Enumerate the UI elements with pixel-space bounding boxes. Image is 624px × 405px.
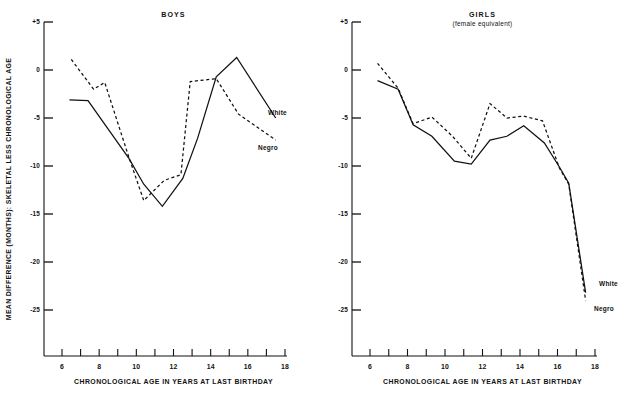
x-axis-tick-label: 12 [169, 363, 177, 370]
series-line-negro [71, 59, 275, 200]
y-axis-tick-label: -5 [342, 114, 348, 121]
panel-title: GIRLS [469, 11, 496, 19]
y-axis-tick-label: 0 [36, 66, 40, 73]
series-line-negro [378, 63, 586, 300]
x-axis-title: CHRONOLOGICAL AGE IN YEARS AT LAST BIRTH… [74, 378, 273, 385]
x-axis-tick-label: 14 [516, 363, 524, 370]
x-axis-tick-label: 10 [441, 363, 449, 370]
x-axis-tick-label: 18 [281, 363, 289, 370]
x-axis-title: CHRONOLOGICAL AGE IN YEARS AT LAST BIRTH… [383, 378, 582, 385]
x-axis-tick-label: 6 [60, 363, 64, 370]
y-axis-tick-label: -20 [338, 258, 348, 265]
y-axis-tick-label: -15 [338, 210, 348, 217]
panel-subtitle: (female equivalent) [452, 20, 512, 28]
chart-canvas: +50-5-10-15-20-25681012141618WhiteNegroB… [0, 0, 624, 405]
y-axis-title: MEAN DIFFERENCE (MONTHS): SKELETAL LESS … [5, 58, 13, 320]
figure-root: +50-5-10-15-20-25681012141618WhiteNegroB… [0, 0, 624, 405]
x-axis-tick-label: 14 [207, 363, 215, 370]
x-axis-tick-label: 18 [591, 363, 599, 370]
series-label-white: White [268, 109, 287, 116]
chart-panel-right: +50-5-10-15-20-25681012141618WhiteNegroG… [338, 11, 618, 385]
y-axis-tick-label: -25 [338, 306, 348, 313]
y-axis-tick-label: -10 [338, 162, 348, 169]
series-label-white: White [599, 280, 618, 287]
y-axis-tick-label: -15 [30, 210, 40, 217]
y-axis-tick-label: -20 [30, 258, 40, 265]
x-axis-tick-label: 10 [132, 363, 140, 370]
x-axis-tick-label: 6 [368, 363, 372, 370]
x-axis-tick-label: 12 [478, 363, 486, 370]
series-label-negro: Negro [258, 144, 278, 152]
x-axis-tick-label: 8 [97, 363, 101, 370]
x-axis-tick-label: 8 [405, 363, 409, 370]
series-label-negro: Negro [594, 305, 614, 313]
y-axis-tick-label: 0 [344, 66, 348, 73]
x-axis-tick-label: 16 [244, 363, 252, 370]
y-axis-tick-label: -10 [30, 162, 40, 169]
chart-panel-left: +50-5-10-15-20-25681012141618WhiteNegroB… [30, 11, 289, 385]
y-axis-tick-label: -5 [34, 114, 40, 121]
x-axis-tick-label: 16 [553, 363, 561, 370]
series-line-white [69, 58, 275, 207]
y-axis-tick-label: -25 [30, 306, 40, 313]
y-axis-tick-label: +5 [340, 18, 348, 25]
y-axis-tick-label: +5 [32, 18, 40, 25]
panel-title: BOYS [161, 11, 185, 19]
